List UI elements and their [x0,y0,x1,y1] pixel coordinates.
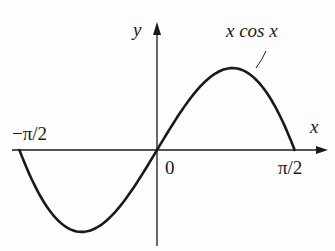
plot-canvas [0,0,335,251]
x-axis-arrow-icon [316,146,328,154]
y-axis-label: y [133,20,141,39]
tick-label-neg-half-pi: −π/2 [12,124,47,143]
x-axis-label: x [310,117,318,136]
curve-annotation-label: x cos x [226,21,278,40]
tick-label-half-pi: π/2 [278,158,302,177]
annotation-leader-line [256,51,266,68]
y-axis-arrow-icon [153,22,161,35]
plot-figure: y x −π/2 0 π/2 x cos x [0,0,335,251]
tick-label-origin: 0 [165,158,175,177]
